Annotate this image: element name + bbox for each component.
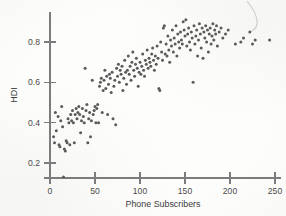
data-point xyxy=(127,55,130,58)
data-point xyxy=(97,121,100,124)
data-point xyxy=(67,121,70,124)
data-point xyxy=(218,30,221,33)
y-axis-ticks: 0.20.40.60.8 xyxy=(28,37,56,168)
data-point xyxy=(90,119,93,122)
data-point xyxy=(189,49,192,52)
y-tick-label: 0.2 xyxy=(28,158,40,168)
data-point xyxy=(158,89,161,92)
data-point xyxy=(204,24,207,27)
data-point xyxy=(110,91,113,94)
data-point xyxy=(160,51,163,54)
data-point xyxy=(113,79,116,82)
data-point xyxy=(154,55,157,58)
data-point xyxy=(120,73,123,76)
data-point xyxy=(136,67,139,70)
data-point xyxy=(202,57,205,60)
data-point xyxy=(177,41,180,44)
data-point xyxy=(181,43,184,46)
data-point xyxy=(143,75,146,78)
data-point xyxy=(57,115,60,118)
data-point xyxy=(168,61,171,64)
data-point xyxy=(71,109,74,112)
x-tick-label: 100 xyxy=(133,186,148,196)
data-point xyxy=(184,18,187,21)
data-point xyxy=(203,36,206,39)
data-point xyxy=(170,45,173,48)
data-point xyxy=(193,24,196,27)
x-axis-title: Phone Subscribers xyxy=(126,199,202,209)
scatter-plot-canvas: 0.20.40.60.8 050100150200250 Phone Subsc… xyxy=(0,0,286,216)
data-point xyxy=(117,63,120,66)
data-point xyxy=(172,51,175,54)
data-point xyxy=(146,49,149,52)
x-axis-ticks: 050100150200250 xyxy=(48,172,283,196)
data-point xyxy=(183,28,186,31)
data-point xyxy=(128,73,131,76)
data-point xyxy=(60,105,63,108)
data-point xyxy=(174,43,177,46)
data-point xyxy=(101,111,104,114)
data-point xyxy=(214,32,217,35)
x-tick-label: 250 xyxy=(268,186,283,196)
data-point xyxy=(268,38,271,41)
data-point xyxy=(69,113,72,116)
data-point xyxy=(152,59,155,62)
data-point xyxy=(171,28,174,31)
data-point xyxy=(166,55,169,58)
data-point xyxy=(202,30,205,33)
data-point xyxy=(135,57,138,60)
scatter-plot-figure: 0.20.40.60.8 050100150200250 Phone Subsc… xyxy=(0,0,286,216)
data-point xyxy=(193,43,196,46)
data-point xyxy=(86,141,89,144)
data-point xyxy=(161,59,164,62)
data-point xyxy=(206,28,209,31)
data-point xyxy=(186,32,189,35)
data-point xyxy=(215,24,218,27)
data-point xyxy=(239,41,242,44)
data-point xyxy=(151,47,154,50)
data-point xyxy=(105,75,108,78)
data-point xyxy=(87,117,90,120)
data-point xyxy=(106,113,109,116)
data-point xyxy=(59,119,62,122)
data-point xyxy=(77,105,80,108)
data-point xyxy=(68,143,71,146)
data-point xyxy=(85,103,88,106)
data-point xyxy=(89,135,92,138)
data-point xyxy=(82,115,85,118)
x-tick-label: 0 xyxy=(48,186,53,196)
data-point xyxy=(95,107,98,110)
data-point xyxy=(102,89,105,92)
data-point xyxy=(112,117,115,120)
data-point xyxy=(92,113,95,116)
data-point xyxy=(133,75,136,78)
data-point xyxy=(130,61,133,64)
data-point xyxy=(62,176,65,179)
data-point xyxy=(52,135,55,138)
data-point xyxy=(192,81,195,84)
data-point xyxy=(99,81,102,84)
data-point xyxy=(216,45,219,48)
data-point xyxy=(114,123,117,126)
data-point xyxy=(88,111,91,114)
data-point xyxy=(153,69,156,72)
data-point xyxy=(194,34,197,37)
data-point xyxy=(129,65,132,68)
data-point xyxy=(103,79,106,82)
data-point xyxy=(79,131,82,134)
data-point xyxy=(140,65,143,68)
data-point xyxy=(212,38,215,41)
data-point xyxy=(210,43,213,46)
data-point xyxy=(83,121,86,124)
data-point xyxy=(81,107,84,110)
data-point xyxy=(55,129,58,132)
data-point xyxy=(224,32,227,35)
data-point xyxy=(139,61,142,64)
data-point xyxy=(179,30,182,33)
data-point xyxy=(208,32,211,35)
data-point xyxy=(191,36,194,39)
data-point xyxy=(188,41,191,44)
data-point xyxy=(200,47,203,50)
data-point xyxy=(107,83,110,86)
data-point xyxy=(157,57,160,60)
